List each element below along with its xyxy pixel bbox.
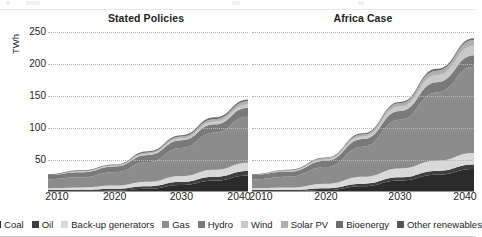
gridline-250 — [48, 32, 248, 33]
y-axis-ticks: 50100150200250 — [8, 12, 46, 202]
y-tick-label-150: 150 — [12, 91, 46, 101]
gridline-100 — [252, 128, 474, 129]
gridline-50 — [252, 160, 474, 161]
legend-swatch-icon — [32, 221, 39, 228]
gridline-150 — [48, 96, 248, 97]
legend-label: Oil — [42, 220, 54, 230]
legend-swatch-icon — [241, 221, 248, 228]
legend-item-back-up-generators[interactable]: Back-up generators — [61, 220, 154, 230]
x-tick-label-2010: 2010 — [45, 190, 68, 202]
x-axis-ticks-africa-case: 2010202020302040 — [252, 186, 474, 202]
legend-label: Solar PV — [291, 220, 329, 230]
panel-africa-case: Africa Case 2010202020302040 — [252, 12, 474, 202]
panel-title-africa-case: Africa Case — [252, 12, 474, 24]
legend-label: Gas — [172, 220, 189, 230]
gridline-50 — [48, 160, 248, 161]
legend-item-coal[interactable]: Coal — [0, 220, 24, 230]
x-axis-ticks-stated-policies: 2010202020302040 — [48, 186, 248, 202]
legend-item-wind[interactable]: Wind — [241, 220, 273, 230]
x-tick-label-2020: 2020 — [314, 190, 337, 202]
legend-item-bioenergy[interactable]: Bioenergy — [336, 220, 389, 230]
gridline-200 — [48, 64, 248, 65]
legend-swatch-icon — [281, 221, 288, 228]
y-tick-label-100: 100 — [12, 123, 46, 133]
y-tick-label-50: 50 — [12, 155, 46, 165]
gridline-150 — [252, 96, 474, 97]
chart-legend: CoalOilBack-up generatorsGasHydroWindSol… — [0, 220, 476, 230]
y-tick-label-200: 200 — [12, 59, 46, 69]
plot-area-stated-policies — [48, 26, 248, 192]
panel-stated-policies: Stated Policies TWh 50100150200250 20102… — [8, 12, 248, 202]
legend-label: Other renewables — [407, 220, 482, 230]
bottom-divider — [0, 236, 476, 237]
legend-swatch-icon — [162, 221, 169, 228]
legend-swatch-icon — [61, 221, 68, 228]
cropped-top-edge — [0, 0, 476, 10]
x-tick-label-2040: 2040 — [453, 190, 476, 202]
legend-swatch-icon — [336, 221, 343, 228]
x-tick-label-2020: 2020 — [103, 190, 126, 202]
legend-label: Coal — [4, 220, 24, 230]
legend-swatch-icon — [198, 221, 205, 228]
x-tick-label-2030: 2030 — [388, 190, 411, 202]
stacked-area-svg-stated-policies — [48, 26, 248, 192]
plot-area-africa-case — [252, 26, 474, 192]
legend-item-solar-pv[interactable]: Solar PV — [281, 220, 329, 230]
x-tick-label-2010: 2010 — [249, 190, 272, 202]
legend-item-other-renewables[interactable]: Other renewables — [397, 220, 482, 230]
gridline-200 — [252, 64, 474, 65]
x-tick-label-2030: 2030 — [170, 190, 193, 202]
x-tick-label-2040: 2040 — [227, 190, 250, 202]
legend-item-oil[interactable]: Oil — [32, 220, 54, 230]
legend-label: Bioenergy — [346, 220, 389, 230]
legend-swatch-icon — [397, 221, 404, 228]
legend-item-gas[interactable]: Gas — [162, 220, 189, 230]
y-tick-label-250: 250 — [12, 27, 46, 37]
legend-swatch-icon — [0, 221, 1, 228]
legend-label: Wind — [251, 220, 273, 230]
stacked-area-svg-africa-case — [252, 26, 474, 192]
legend-label: Back-up generators — [71, 220, 154, 230]
legend-label: Hydro — [208, 220, 233, 230]
gridline-250 — [252, 32, 474, 33]
gridline-100 — [48, 128, 248, 129]
legend-item-hydro[interactable]: Hydro — [198, 220, 233, 230]
